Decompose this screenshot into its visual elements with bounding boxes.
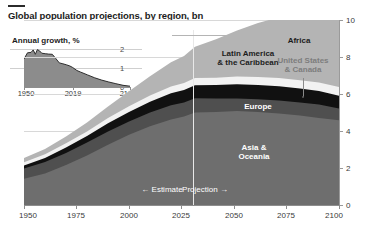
brand-rule: [8, 5, 25, 7]
y-tick-10: [339, 20, 343, 21]
band-label-europe: Europe: [244, 103, 272, 112]
x-axis-label-1975: 1975: [67, 211, 85, 220]
y-axis-label-10: 10: [346, 16, 355, 25]
band-label-latin-america-line2: & the Caribbean: [217, 59, 278, 68]
band-label-us-canada-line2: & Canada: [277, 66, 328, 75]
leader-line-us-canada: [303, 78, 304, 97]
x-axis-label-2025: 2025: [172, 211, 190, 220]
y-tick-8: [339, 57, 343, 58]
band-label-asia-oceania: Asia & Oceania: [238, 144, 269, 162]
y-axis-label-2: 2: [346, 164, 350, 173]
stacked-area-chart: [24, 20, 339, 205]
x-tick-2075: [286, 205, 287, 209]
x-axis-label-2075: 2075: [277, 211, 295, 220]
band-label-africa-text: Africa: [288, 36, 311, 45]
x-axis-label-2050: 2050: [225, 211, 243, 220]
estimate-projection-divider: [193, 30, 194, 205]
x-tick-2050: [234, 205, 235, 209]
band-label-asia-line2: Oceania: [238, 153, 269, 162]
y-axis: [339, 20, 340, 206]
x-axis-label-2000: 2000: [120, 211, 138, 220]
band-label-us-canada: United States & Canada: [277, 57, 328, 75]
x-tick-1950: [24, 205, 25, 209]
x-tick-1975: [76, 205, 77, 209]
x-tick-2000: [129, 205, 130, 209]
x-tick-2100: [339, 205, 340, 209]
y-axis-label-0: 0: [346, 201, 350, 210]
main-plot: [24, 20, 339, 205]
band-label-latin-america: Latin America & the Caribbean: [217, 50, 278, 68]
x-axis: [24, 205, 340, 206]
chart-root: Global population projections, by region…: [0, 0, 372, 239]
y-axis-label-8: 8: [346, 53, 350, 62]
x-tick-2025: [181, 205, 182, 209]
x-axis-label-2100: 2100: [325, 211, 343, 220]
band-label-europe-text: Europe: [244, 102, 272, 111]
era-label-estimate: ← Estimate: [141, 185, 182, 194]
y-axis-label-6: 6: [346, 90, 350, 99]
y-axis-label-4: 4: [346, 127, 350, 136]
leader-dot-us-canada: [302, 96, 304, 98]
band-label-africa: Africa: [288, 37, 311, 46]
leader-line-latin-america: [172, 35, 250, 36]
era-label-projection: Projection →: [182, 185, 228, 194]
y-tick-4: [339, 131, 343, 132]
y-tick-2: [339, 168, 343, 169]
x-axis-label-1950: 1950: [19, 211, 37, 220]
y-tick-6: [339, 94, 343, 95]
